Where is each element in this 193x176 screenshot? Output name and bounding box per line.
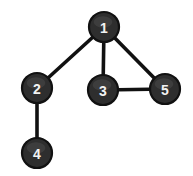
- node-label-3: 3: [99, 83, 107, 99]
- node-label-2: 2: [33, 81, 41, 97]
- graph-node-3[interactable]: 3: [88, 75, 118, 105]
- graph-canvas: 12345: [0, 0, 193, 176]
- graph-node-2[interactable]: 2: [22, 73, 52, 103]
- graph-node-5[interactable]: 5: [150, 74, 180, 104]
- node-label-4: 4: [33, 146, 41, 162]
- graph-node-1[interactable]: 1: [89, 12, 119, 42]
- node-label-1: 1: [100, 20, 108, 36]
- graph-node-4[interactable]: 4: [22, 138, 52, 168]
- node-label-5: 5: [161, 82, 169, 98]
- graph-figure: 12345: [0, 0, 193, 176]
- node-layer: 12345: [22, 12, 180, 168]
